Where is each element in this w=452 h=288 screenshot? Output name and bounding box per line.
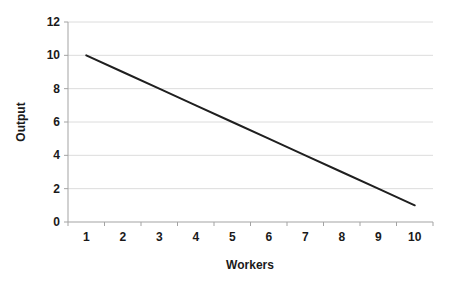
y-axis-tick-labels: 024681012	[47, 15, 61, 229]
y-tick-label-2: 2	[53, 182, 60, 196]
y-tick-label-12: 12	[47, 15, 61, 29]
x-tick-label-1: 1	[83, 230, 90, 244]
x-tick-label-5: 5	[229, 230, 236, 244]
axes	[64, 22, 433, 226]
x-axis-tick-labels: 12345678910	[83, 230, 422, 244]
y-tick-label-0: 0	[53, 215, 60, 229]
x-tick-label-9: 9	[375, 230, 382, 244]
x-tick-label-4: 4	[192, 230, 199, 244]
series-line-output	[86, 55, 415, 205]
x-axis-title: Workers	[226, 258, 274, 272]
y-axis-title: Output	[14, 102, 28, 141]
x-tick-label-3: 3	[156, 230, 163, 244]
x-tick-label-8: 8	[338, 230, 345, 244]
chart-canvas: 024681012 12345678910 Output Workers	[0, 0, 452, 288]
x-tick-label-6: 6	[265, 230, 272, 244]
y-tick-label-10: 10	[47, 48, 61, 62]
gridlines	[68, 22, 433, 189]
x-tick-label-10: 10	[408, 230, 422, 244]
y-tick-label-8: 8	[53, 82, 60, 96]
x-tick-label-2: 2	[119, 230, 126, 244]
x-tick-label-7: 7	[302, 230, 309, 244]
line-chart: 024681012 12345678910 Output Workers	[0, 0, 452, 288]
y-tick-label-4: 4	[53, 148, 60, 162]
y-tick-label-6: 6	[53, 115, 60, 129]
